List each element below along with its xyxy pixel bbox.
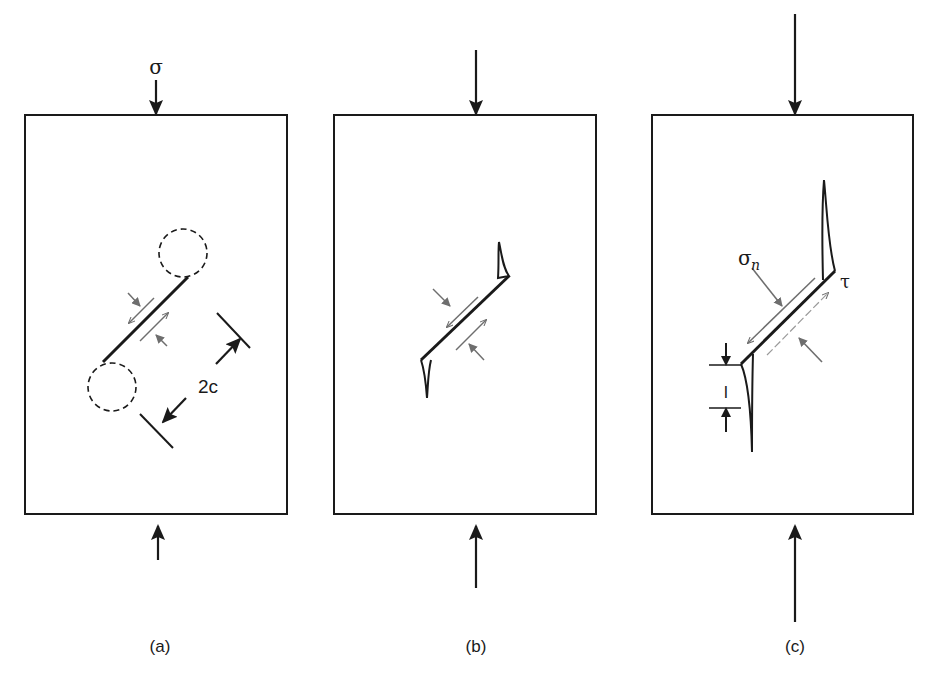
panel-c: σ n τ l (c) — [652, 14, 913, 656]
panel-a: σ 2c (a) — [25, 55, 287, 656]
slip-arrow-lower — [140, 313, 168, 341]
sigma-load-label: σ — [149, 55, 163, 79]
panel-caption-c: (c) — [785, 637, 805, 656]
normal-arrow-lower-b — [469, 344, 484, 360]
specimen-box-a — [25, 115, 287, 514]
dimension-tick-lower — [140, 414, 173, 448]
normal-stress-arrow-lower — [799, 338, 822, 362]
normal-stress-arrow-upper — [752, 268, 782, 306]
slip-arrow-lower-c — [767, 293, 828, 355]
crack-length-label: 2c — [198, 376, 218, 397]
dimension-tick-upper — [217, 313, 250, 348]
panel-caption-a: (a) — [150, 637, 171, 656]
wing-length-label: l — [724, 383, 728, 402]
shear-stress-label: τ — [840, 271, 850, 292]
specimen-box-b — [334, 115, 596, 514]
dimension-arrow-down — [163, 398, 186, 422]
panel-caption-b: (b) — [466, 637, 487, 656]
wing-crack-lower-c — [741, 354, 753, 452]
crack-c — [741, 271, 835, 364]
dimension-arrow-up — [216, 339, 240, 364]
upper-tip-zone-circle — [159, 229, 207, 277]
slip-arrow-upper — [129, 298, 154, 323]
panel-b: (b) — [334, 50, 596, 656]
normal-arrow-upper — [128, 293, 140, 306]
lower-tip-zone-circle — [88, 363, 136, 411]
slip-arrow-upper-c — [748, 278, 815, 343]
crack-a — [103, 277, 188, 362]
normal-stress-subscript: n — [751, 257, 760, 273]
normal-arrow-upper-b — [433, 289, 450, 306]
normal-arrow-lower — [156, 335, 167, 346]
wing-crack-lower-b — [421, 360, 431, 398]
normal-stress-label: σ — [738, 246, 752, 270]
wing-crack-upper-c — [822, 180, 835, 280]
wing-crack-upper-b — [498, 242, 509, 278]
wing-crack-figure: σ 2c (a) (b) — [0, 0, 935, 674]
specimen-box-c — [652, 115, 913, 514]
crack-b — [421, 276, 509, 360]
